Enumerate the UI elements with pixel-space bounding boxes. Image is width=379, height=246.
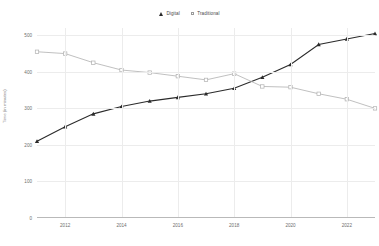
gridline-v [178, 28, 179, 218]
legend-entry-traditional[interactable]: Traditional [191, 11, 220, 16]
y-tick-label: 200 [0, 142, 32, 147]
data-point-square [261, 85, 264, 88]
gridline-v [347, 28, 348, 218]
x-tick-label: 2014 [116, 223, 126, 228]
x-tick-label: 2016 [173, 223, 183, 228]
x-tick-label: 2012 [60, 223, 70, 228]
gridline-h [37, 72, 375, 73]
series-traditional [35, 50, 376, 110]
data-point-square [317, 92, 320, 95]
legend-label-traditional: Traditional [197, 11, 219, 16]
square-marker-icon [191, 12, 194, 15]
gridline-v [65, 28, 66, 218]
chart-legend: Digital Traditional [0, 11, 379, 16]
data-point-square [204, 78, 207, 81]
legend-label-digital: Digital [166, 11, 179, 16]
data-point-square [35, 50, 38, 53]
line-chart: Digital Traditional Time (in minutes) 01… [0, 0, 379, 246]
gridline-h [37, 35, 375, 36]
gridline-v [291, 28, 292, 218]
series-layer [37, 28, 375, 218]
legend-entry-digital[interactable]: Digital [159, 11, 179, 16]
gridline-h [37, 181, 375, 182]
gridline-h [37, 108, 375, 109]
plot-area [37, 28, 375, 218]
y-tick-label: 0 [0, 216, 32, 221]
y-tick-label: 500 [0, 33, 32, 38]
x-tick-label: 2018 [229, 223, 239, 228]
x-tick-label: 2022 [342, 223, 352, 228]
x-axis-line [37, 217, 375, 218]
gridline-v [234, 28, 235, 218]
triangle-marker-icon [159, 12, 163, 16]
gridline-v [122, 28, 123, 218]
y-tick-label: 400 [0, 69, 32, 74]
y-tick-label: 300 [0, 106, 32, 111]
series-digital [35, 31, 377, 143]
series-line [37, 33, 375, 141]
data-point-square [92, 61, 95, 64]
gridline-h [37, 145, 375, 146]
y-tick-label: 100 [0, 179, 32, 184]
x-tick-label: 2020 [285, 223, 295, 228]
